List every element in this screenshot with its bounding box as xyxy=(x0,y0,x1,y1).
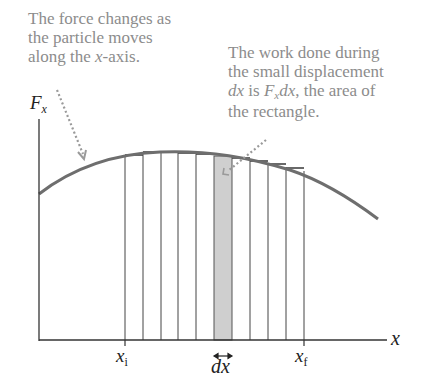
annotation-left-line2: the particle moves xyxy=(28,28,171,47)
annotation-left-line3: along the x-axis. xyxy=(28,47,171,66)
dx-symbol: dx xyxy=(211,355,230,373)
f-subscript: x xyxy=(274,89,279,101)
f-symbol: F xyxy=(30,92,42,113)
x-symbol: x xyxy=(391,327,400,349)
annotation-left-line1: The force changes as xyxy=(28,9,171,28)
annotation-right-line4: the rectangle. xyxy=(228,102,384,121)
xi-subscript: i xyxy=(124,355,127,369)
annotation-right-line2: the small displacement xyxy=(228,62,384,81)
xf-subscript: f xyxy=(303,355,307,369)
y-label-subscript: x xyxy=(42,102,47,116)
xf-label: xf xyxy=(295,345,307,367)
f-term: F xyxy=(264,81,274,100)
annotation-right-line1: The work done during xyxy=(228,43,384,62)
x-axis-label: x xyxy=(391,327,400,350)
highlighted-rectangle-dx xyxy=(214,156,232,340)
text: , the area of xyxy=(295,81,375,100)
dotted-arrow-left xyxy=(57,90,86,159)
force-curve xyxy=(39,152,378,219)
dx-term: dx xyxy=(279,81,295,100)
annotation-force-changes: The force changes as the particle moves … xyxy=(28,9,171,66)
annotation-right-line3: dx is Fxdx, the area of xyxy=(228,81,384,102)
y-axis-label: Fx xyxy=(30,92,47,114)
text: -axis. xyxy=(103,47,140,66)
text: is xyxy=(244,81,264,100)
x-variable: x xyxy=(95,47,103,66)
xi-label: xi xyxy=(116,345,128,367)
annotation-work-done: The work done during the small displacem… xyxy=(228,43,384,121)
dx-term: dx xyxy=(228,81,244,100)
text: along the xyxy=(28,47,95,66)
dx-label: dx xyxy=(211,355,230,373)
